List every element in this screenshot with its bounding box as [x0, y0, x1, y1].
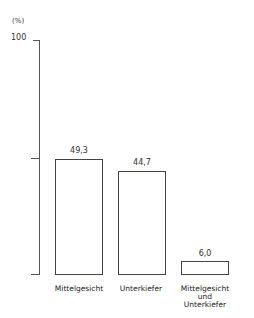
y-axis-unit-label: (%)	[12, 17, 24, 25]
bar-unterkiefer	[118, 171, 166, 275]
y-tick-bottom	[31, 274, 40, 275]
y-tick-top	[33, 40, 40, 41]
y-tick-label-100: 100	[11, 33, 26, 42]
category-label: Mittelgesicht und Unterkiefer	[172, 285, 238, 309]
bar-mittelgesicht	[55, 159, 103, 275]
y-axis-line	[39, 40, 40, 274]
bar-mittelgesicht-und-unterkiefer	[181, 261, 229, 275]
category-label: Unterkiefer	[110, 285, 172, 293]
bar-value-label: 6,0	[181, 249, 229, 258]
bar-value-label: 44,7	[118, 158, 166, 167]
y-tick-middle	[31, 158, 40, 159]
category-label: Mittelgesicht	[48, 285, 110, 293]
bar-value-label: 49,3	[55, 146, 103, 155]
